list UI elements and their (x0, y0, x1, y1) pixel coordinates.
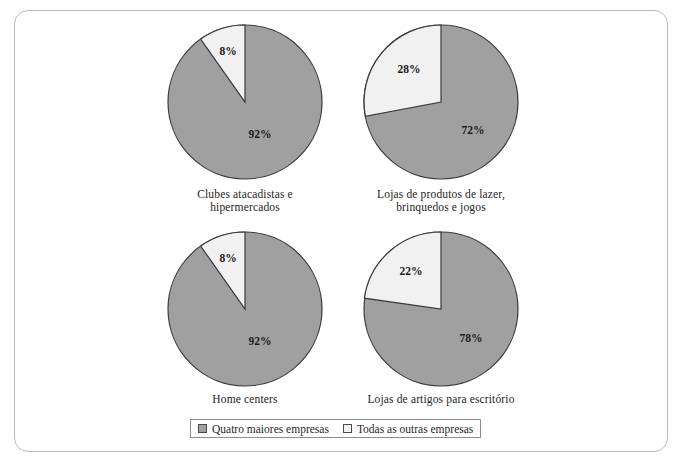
figure-frame (14, 10, 668, 452)
pie-chart-4-caption: Lojas de artigos para escritório (361, 393, 521, 406)
pie-chart-4-caption-line-1: Lojas de artigos para escritório (361, 393, 521, 406)
legend-label-major-firms: Quatro maiores empresas (212, 423, 329, 435)
pie-chart-2-caption: Lojas de produtos de lazer, brinquedos e… (361, 188, 521, 213)
pie-slice-label-major-3: 92% (249, 335, 272, 347)
pie-slice-label-major-1: 92% (249, 128, 272, 140)
chart-legend: Quatro maiores empresas Todas as outras … (190, 419, 481, 438)
pie-chart-3-caption: Home centers (165, 393, 325, 406)
pie-chart-1: 8% 92% Clubes atacadistas e hipermercado… (165, 22, 325, 182)
legend-swatch-icon-other-firms (343, 424, 352, 433)
pie-chart-1-caption-line-1: Clubes atacadistas e hipermercados (165, 188, 325, 213)
pie-chart-3-caption-line-1: Home centers (165, 393, 325, 406)
pie-chart-2-caption-line-1: Lojas de produtos de lazer, (361, 188, 521, 201)
pie-chart-2-caption-line-2: brinquedos e jogos (361, 201, 521, 214)
pie-chart-4-graphic: 22% 78% (361, 229, 521, 389)
pie-chart-figure: 8% 92% Clubes atacadistas e hipermercado… (0, 0, 684, 460)
pie-chart-2-graphic: 28% 72% (361, 22, 521, 182)
pie-chart-1-graphic: 8% 92% (165, 22, 325, 182)
pie-chart-4: 22% 78% Lojas de artigos para escritório (361, 229, 521, 389)
legend-swatch-icon-major-firms (198, 424, 207, 433)
legend-item-major-firms: Quatro maiores empresas (198, 423, 329, 435)
pie-chart-3: 8% 92% Home centers (165, 229, 325, 389)
pie-chart-2: 28% 72% Lojas de produtos de lazer, brin… (361, 22, 521, 182)
pie-slice-label-others-3: 8% (219, 252, 236, 264)
legend-label-other-firms: Todas as outras empresas (357, 423, 473, 435)
pie-chart-3-graphic: 8% 92% (165, 229, 325, 389)
pie-slice-label-others-2: 28% (398, 63, 421, 75)
pie-chart-1-caption: Clubes atacadistas e hipermercados (165, 188, 325, 213)
pie-slice-label-major-2: 72% (462, 124, 485, 136)
pie-slice-label-others-1: 8% (219, 45, 236, 57)
pie-slice-label-others-4: 22% (400, 265, 423, 277)
pie-slice-label-major-4: 78% (460, 332, 483, 344)
legend-item-other-firms: Todas as outras empresas (343, 423, 473, 435)
